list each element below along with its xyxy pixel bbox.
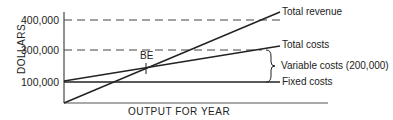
total-costs-line [64, 46, 280, 81]
breakeven-chart: 400,000 300,000 100,000 DOLLARS OUTPUT F… [0, 0, 393, 120]
ytick-100000: 100,000 [21, 76, 59, 88]
total-costs-label: Total costs [282, 39, 329, 50]
variable-costs-label: Variable costs (200,000) [281, 60, 389, 71]
x-axis-label: OUTPUT FOR YEAR [128, 106, 230, 117]
total-revenue-label: Total revenue [282, 6, 342, 17]
variable-costs-brace [266, 50, 275, 82]
y-axis-label: DOLLARS [16, 24, 27, 74]
total-revenue-line [64, 12, 280, 103]
fixed-costs-label: Fixed costs [282, 76, 333, 87]
break-even-label: BE [140, 50, 154, 61]
